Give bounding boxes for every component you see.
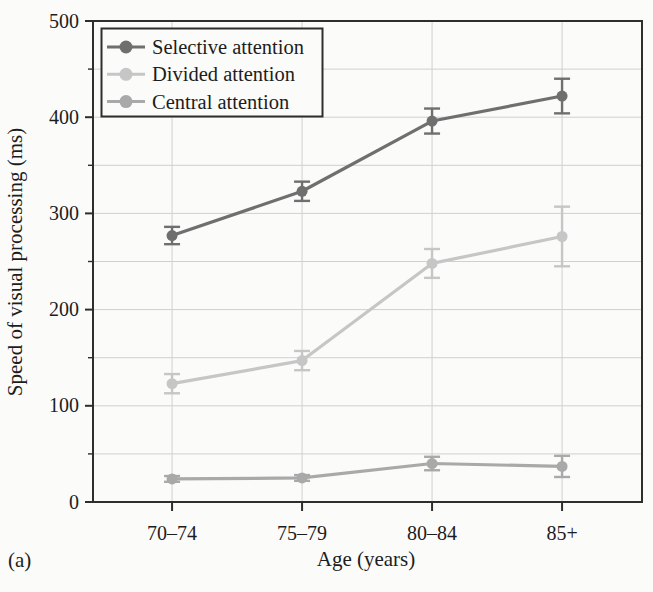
y-axis-title: Speed of visual processing (ms) [3, 128, 27, 396]
data-point [167, 378, 178, 389]
x-axis-tick-label: 70–74 [147, 522, 197, 544]
x-axis-tick-label: 85+ [546, 522, 577, 544]
data-point [557, 461, 568, 472]
legend-label: Divided attention [152, 63, 295, 85]
y-axis-tick-label: 500 [49, 10, 79, 32]
y-axis-tick-label: 200 [49, 298, 79, 320]
x-axis-tick-label: 80–84 [407, 522, 457, 544]
x-axis-tick-label: 75–79 [277, 522, 327, 544]
panel-label: (a) [8, 548, 31, 572]
data-point [167, 473, 178, 484]
chart-canvas: 010020030040050070–7475–7980–8485+Select… [0, 0, 653, 592]
legend-label: Selective attention [152, 36, 304, 58]
y-axis-tick-label: 400 [49, 106, 79, 128]
data-point [557, 91, 568, 102]
y-axis-tick-label: 100 [49, 394, 79, 416]
data-point [167, 230, 178, 241]
data-point [297, 355, 308, 366]
legend-marker-dot [120, 68, 133, 81]
data-point [297, 186, 308, 197]
legend-label: Central attention [152, 91, 289, 113]
y-axis-tick-label: 0 [69, 491, 79, 513]
y-axis-tick-label: 300 [49, 202, 79, 224]
data-point [427, 258, 438, 269]
legend-marker-dot [120, 41, 133, 54]
x-axis-title: Age (years) [317, 547, 416, 571]
data-point [427, 116, 438, 127]
chart-figure: 010020030040050070–7475–7980–8485+Select… [0, 0, 653, 592]
data-point [557, 231, 568, 242]
legend-marker-dot [120, 95, 133, 108]
series-line [172, 464, 562, 479]
data-point [427, 458, 438, 469]
data-point [297, 472, 308, 483]
